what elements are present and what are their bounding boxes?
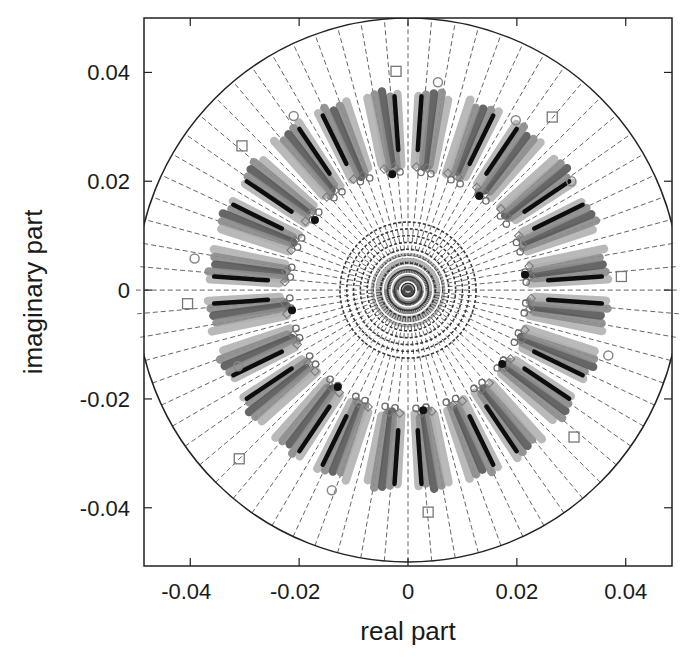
y-axis-label: imaginary part: [18, 209, 48, 375]
pole-marker: [475, 192, 483, 200]
open-circle-marker: [433, 78, 442, 87]
x-axis-label: real part: [360, 616, 456, 646]
pole-marker: [521, 271, 529, 279]
x-tick-label: 0: [402, 579, 414, 604]
pole-marker: [388, 170, 396, 178]
x-tick-label: 0.02: [495, 579, 538, 604]
y-tick-label: 0.04: [87, 60, 130, 85]
y-tick-label: -0.02: [80, 387, 130, 412]
pole-marker: [288, 306, 296, 314]
pole-marker: [311, 216, 319, 224]
square-marker: [616, 271, 626, 281]
square-marker: [569, 432, 579, 442]
x-tick-label: -0.04: [161, 579, 211, 604]
y-tick-label: -0.04: [80, 496, 130, 521]
ring-circle-marker: [448, 177, 454, 183]
pole-zero-plot: -0.04-0.0200.020.040.040.020-0.02-0.04 r…: [0, 0, 690, 663]
x-tick-label: 0.04: [604, 579, 647, 604]
ring-circle-marker: [294, 244, 300, 250]
polar-grid: [136, 18, 680, 562]
square-marker: [547, 112, 557, 122]
y-tick-label: 0: [118, 278, 130, 303]
square-marker: [237, 141, 247, 151]
y-tick-label: 0.02: [87, 169, 130, 194]
square-marker: [391, 66, 401, 76]
pole-marker: [498, 360, 506, 368]
center-shading: [371, 253, 446, 328]
open-circle-marker: [190, 254, 199, 263]
pole-marker: [334, 383, 342, 391]
x-tick-label: -0.02: [270, 579, 320, 604]
ring-circle-marker: [418, 169, 424, 175]
pole-marker: [419, 406, 427, 414]
ring-circle-marker: [306, 353, 312, 359]
ring-circle-marker: [503, 221, 509, 227]
open-circle-marker: [604, 351, 613, 360]
square-marker: [423, 507, 433, 517]
ring-circle-marker: [312, 361, 318, 367]
open-circle-marker: [289, 111, 298, 120]
square-marker: [183, 299, 193, 309]
